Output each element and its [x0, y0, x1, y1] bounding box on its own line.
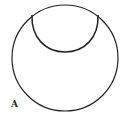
panel-label: A: [11, 100, 18, 109]
inner-arc: [32, 15, 98, 52]
outer-circle: [12, 5, 118, 111]
diagram-canvas: [0, 0, 130, 114]
